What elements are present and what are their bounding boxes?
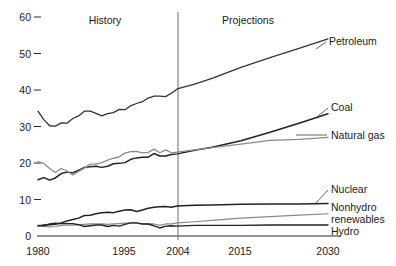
y-tick-label-0: 0 [25,230,31,242]
y-tick-label-50: 50 [19,48,31,60]
y-tick-label-40: 40 [19,84,31,96]
series-label-nonhydro-line2: renewables [331,213,385,225]
y-axis-tick-labels: 60 50 40 30 20 10 0 [19,11,31,242]
y-tick-label-10: 10 [19,194,31,206]
chart-canvas: 60 50 40 30 20 10 0 1980 1995 2004 2015 … [0,0,396,266]
leader-nuclear [316,190,328,203]
projections-label: Projections [222,14,274,26]
series-line-petroleum [38,39,328,126]
series-label-petroleum: Petroleum [329,35,377,47]
series-label-hydro: Hydro [331,225,359,237]
series-label-nuclear: Nuclear [331,183,368,195]
series-label-nonhydro-line1: Nonhydro [331,201,377,213]
leader-petroleum [316,42,326,49]
series-line-hydro [38,223,328,228]
y-tick-label-30: 30 [19,121,31,133]
x-tick-label-1980: 1980 [26,245,50,257]
x-tick-label-1995: 1995 [112,245,136,257]
energy-consumption-line-chart: 60 50 40 30 20 10 0 1980 1995 2004 2015 … [0,0,396,266]
x-tick-label-2004: 2004 [166,245,190,257]
x-tick-label-2030: 2030 [316,245,340,257]
y-axis-ticks [34,17,41,200]
series-labels: Petroleum Coal Natural gas Nuclear Nonhy… [329,35,385,237]
x-tick-label-2015: 2015 [228,245,252,257]
y-tick-label-20: 20 [19,157,31,169]
series-line-natural-gas [38,137,328,175]
series-label-natural-gas: Natural gas [331,129,385,141]
history-label: History [89,14,122,26]
y-tick-label-60: 60 [19,11,31,23]
series-label-coal: Coal [331,101,353,113]
series-layer [38,39,328,228]
x-axis-tick-labels: 1980 1995 2004 2015 2030 [26,245,340,257]
